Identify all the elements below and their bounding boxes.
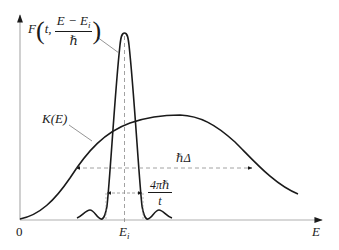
close-paren: ) bbox=[92, 16, 101, 45]
wide-width-label: ℏΔ bbox=[176, 152, 191, 164]
narrow-width-numerator: 4πℏ bbox=[148, 179, 172, 193]
f-label-fraction: E − Ei ℏ bbox=[55, 14, 93, 47]
origin-label: 0 bbox=[16, 225, 23, 238]
narrow-width-fraction: 4πℏ t bbox=[148, 179, 172, 207]
energy-distribution-diagram: F(t, E − Ei ℏ ) K(E) ℏΔ 4πℏ t 0 Ei E bbox=[0, 0, 339, 250]
narrow-width-denominator: t bbox=[158, 193, 161, 207]
ei-axis-label: Ei bbox=[119, 225, 129, 241]
f-label-prefix: F bbox=[28, 21, 36, 36]
f-label-arg-t: t, bbox=[45, 21, 52, 36]
f-label-numerator: E − Ei bbox=[55, 14, 93, 32]
k-function-label: K(E) bbox=[42, 112, 67, 125]
k-label-leader bbox=[69, 125, 92, 141]
x-axis-label: E bbox=[312, 225, 320, 238]
f-function-label: F(t, E − Ei ℏ ) bbox=[28, 14, 101, 47]
f-label-denominator: ℏ bbox=[69, 32, 77, 47]
narrow-width-label: 4πℏ t bbox=[148, 179, 172, 207]
open-paren: ( bbox=[36, 16, 45, 45]
